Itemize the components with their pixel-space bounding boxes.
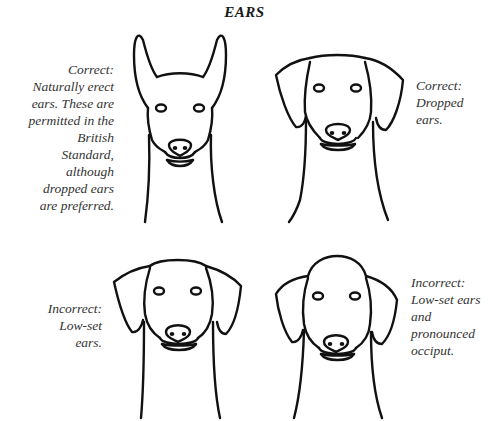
- dog-head-low-set-occiput-icon: [276, 256, 397, 418]
- dog-head-erect-ears-icon: [134, 36, 226, 222]
- dog-illustrations: [0, 0, 489, 421]
- dog-head-low-set-ears-icon: [114, 260, 241, 418]
- dog-head-dropped-ears-icon: [276, 55, 403, 222]
